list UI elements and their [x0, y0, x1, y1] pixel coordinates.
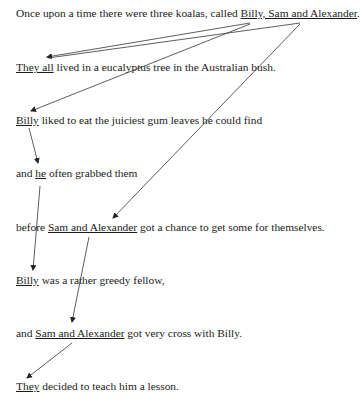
text: before — [16, 221, 48, 233]
text: liked to eat the juiciest gum leaves he … — [39, 114, 262, 126]
arrow-billy-to-he — [29, 128, 38, 163]
text: often grabbed them — [46, 167, 137, 179]
text: was a rather greedy fellow, — [39, 274, 165, 286]
sentence-5: before Sam and Alexander got a chance to… — [16, 220, 325, 234]
text: and — [16, 327, 35, 339]
sentence-7: and Sam and Alexander got very cross wit… — [16, 326, 242, 340]
text: . — [357, 7, 360, 19]
referent-sam-and-alexander-2: Sam and Alexander — [35, 327, 124, 339]
text: got very cross with Billy. — [125, 327, 243, 339]
text: Once upon a time there were three koalas… — [16, 7, 241, 19]
referent-sam-and-alexander: Sam and Alexander — [48, 221, 137, 233]
referent-he: he — [35, 167, 46, 179]
referent-billy: Billy — [16, 114, 39, 126]
arrow-billy-to-they-all — [47, 23, 250, 57]
referent-they-all: They all — [16, 61, 54, 73]
text: lived in a eucalyptus tree in the Austra… — [54, 61, 276, 73]
sentence-6: Billy was a rather greedy fellow, — [16, 273, 165, 287]
text: got a chance to get some for themselves. — [137, 221, 325, 233]
sentence-2: They all lived in a eucalyptus tree in t… — [16, 60, 276, 74]
text: and — [16, 167, 35, 179]
sentence-1: Once upon a time there were three koalas… — [16, 6, 360, 20]
referent-billy-sam-alexander: Billy, Sam and Alexander — [241, 7, 357, 19]
text: decided to teach him a lesson. — [39, 380, 179, 392]
sentence-8: They decided to teach him a lesson. — [16, 379, 179, 393]
arrow-sam-alexander-to-they — [27, 343, 72, 378]
referent-they: They — [16, 380, 39, 392]
arrow-sam-alexander-to-they-all — [48, 23, 300, 58]
referent-billy-2: Billy — [16, 274, 39, 286]
sentence-3: Billy liked to eat the juiciest gum leav… — [16, 113, 262, 127]
sentence-4: and he often grabbed them — [16, 166, 137, 180]
